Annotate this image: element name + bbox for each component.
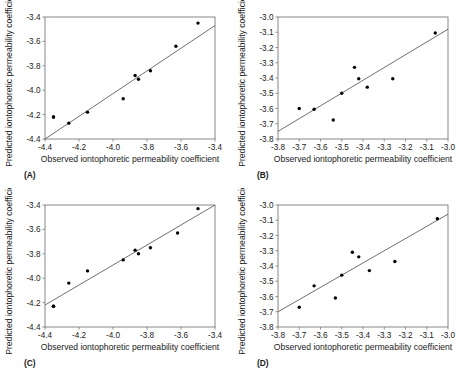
x-tick-label: -3.5 (335, 331, 350, 340)
panel-label: (A) (24, 170, 36, 180)
x-tick-label: -4.4 (38, 143, 53, 152)
y-tick-label: -3.7 (259, 120, 274, 129)
data-point (137, 252, 140, 255)
x-tick-label: -3.6 (174, 143, 189, 152)
data-point (133, 248, 136, 251)
x-axis-title: Observed iontophoretic permeability coef… (41, 342, 220, 352)
x-tick-label: -3.2 (398, 143, 413, 152)
data-point (86, 110, 89, 113)
x-tick-label: -3.4 (356, 331, 371, 340)
x-tick-label: -3.8 (271, 331, 286, 340)
y-tick-label: -3.3 (259, 59, 274, 68)
x-tick-label: -3.0 (441, 331, 456, 340)
y-tick-label: -4.0 (26, 274, 41, 283)
y-axis-title: Predicted iontophoretic permeability coe… (237, 0, 247, 167)
x-tick-label: -3.5 (335, 143, 350, 152)
data-point (312, 108, 315, 111)
x-tick-label: -3.4 (208, 143, 223, 152)
x-tick-label: -3.6 (313, 143, 328, 152)
y-tick-label: -3.4 (26, 13, 41, 22)
plot-frame (278, 205, 448, 327)
y-tick-label: -3.0 (259, 13, 274, 22)
data-point (353, 66, 356, 69)
x-tick-label: -3.7 (292, 331, 307, 340)
x-tick-label: -3.2 (398, 331, 413, 340)
data-point (340, 92, 343, 95)
x-axis-title: Observed iontophoretic permeability coef… (274, 342, 453, 352)
y-tick-label: -3.4 (259, 262, 274, 271)
y-axis-title: Predicted iontophoretic permeability coe… (237, 188, 247, 355)
panel-label: (C) (24, 358, 36, 368)
data-point (137, 78, 140, 81)
y-tick-label: -4.2 (26, 111, 41, 120)
x-tick-label: -3.4 (356, 143, 371, 152)
data-point (122, 97, 125, 100)
data-point (52, 115, 55, 118)
data-point (67, 121, 70, 124)
y-tick-label: -3.3 (259, 247, 274, 256)
regression-line (278, 29, 448, 131)
x-tick-label: -3.4 (208, 331, 223, 340)
data-point (368, 269, 371, 272)
x-tick-label: -4.0 (106, 143, 121, 152)
panel-d: -3.8-3.7-3.6-3.5-3.4-3.3-3.2-3.1-3.0-3.0… (233, 188, 466, 376)
y-tick-label: -3.6 (259, 293, 274, 302)
data-point (366, 85, 369, 88)
y-tick-label: -4.4 (26, 323, 41, 332)
data-point (351, 251, 354, 254)
x-tick-label: -4.4 (38, 331, 53, 340)
plot-c: -4.4-4.2-4.0-3.8-3.6-3.4-3.4-3.6-3.8-4.0… (0, 188, 233, 376)
data-point (332, 118, 335, 121)
x-axis-title: Observed iontophoretic permeability coef… (41, 154, 220, 164)
y-tick-label: -3.6 (259, 105, 274, 114)
data-point (391, 77, 394, 80)
x-tick-label: -4.2 (72, 143, 87, 152)
data-point (196, 207, 199, 210)
figure-scatter-panels: -4.4-4.2-4.0-3.8-3.6-3.4-3.4-3.6-3.8-4.0… (0, 0, 466, 376)
y-tick-label: -3.6 (26, 225, 41, 234)
data-point (67, 281, 70, 284)
y-tick-label: -3.6 (26, 37, 41, 46)
data-point (52, 305, 55, 308)
x-tick-label: -3.6 (174, 331, 189, 340)
panel-label: (D) (257, 358, 269, 368)
y-tick-label: -3.5 (259, 89, 274, 98)
data-point (149, 246, 152, 249)
y-tick-label: -3.0 (259, 201, 274, 210)
panel-label: (B) (257, 170, 269, 180)
y-tick-label: -3.8 (26, 62, 41, 71)
x-tick-label: -3.8 (140, 331, 155, 340)
y-axis-title: Predicted iontophoretic permeability coe… (4, 188, 14, 355)
y-tick-label: -3.2 (259, 232, 274, 241)
plot-frame (278, 17, 448, 139)
regression-line (45, 26, 215, 139)
plot-frame (45, 17, 215, 139)
data-point (176, 231, 179, 234)
x-tick-label: -3.8 (271, 143, 286, 152)
panel-c: -4.4-4.2-4.0-3.8-3.6-3.4-3.4-3.6-3.8-4.0… (0, 188, 233, 376)
x-tick-label: -3.3 (377, 143, 392, 152)
y-tick-label: -3.4 (259, 74, 274, 83)
data-point (434, 31, 437, 34)
data-point (174, 45, 177, 48)
y-tick-label: -3.1 (259, 28, 274, 37)
data-point (196, 21, 199, 24)
y-tick-label: -3.8 (259, 135, 274, 144)
data-point (298, 107, 301, 110)
data-point (357, 77, 360, 80)
x-tick-label: -3.7 (292, 143, 307, 152)
x-tick-label: -3.8 (140, 143, 155, 152)
y-axis-title: Predicted iontophoretic permeability coe… (4, 0, 14, 167)
regression-line (278, 214, 448, 312)
y-tick-label: -3.1 (259, 216, 274, 225)
x-tick-label: -4.2 (72, 331, 87, 340)
panel-b: -3.8-3.7-3.6-3.5-3.4-3.3-3.2-3.1-3.0-3.0… (233, 0, 466, 188)
plot-a: -4.4-4.2-4.0-3.8-3.6-3.4-3.4-3.6-3.8-4.0… (0, 0, 233, 188)
data-point (149, 69, 152, 72)
plot-b: -3.8-3.7-3.6-3.5-3.4-3.3-3.2-3.1-3.0-3.0… (233, 0, 466, 188)
x-tick-label: -3.6 (313, 331, 328, 340)
y-tick-label: -3.2 (259, 44, 274, 53)
y-tick-label: -3.8 (259, 323, 274, 332)
y-tick-label: -4.0 (26, 86, 41, 95)
y-tick-label: -4.4 (26, 135, 41, 144)
